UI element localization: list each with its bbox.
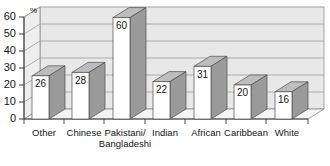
y-tick-label-30: 30 — [4, 61, 16, 73]
chart-canvas: % 0 10 20 30 40 50 60 26 — [0, 0, 330, 166]
y-tick-label-40: 40 — [4, 44, 16, 56]
x-category-label-african: African — [191, 127, 221, 138]
bar-other: 26 — [32, 66, 65, 119]
x-category-label-indian: Indian — [152, 127, 178, 138]
y-tick-label-50: 50 — [4, 27, 16, 39]
x-category-label-chinese: Chinese — [67, 127, 102, 138]
bar-value-pakistani-bangladeshi: 60 — [116, 20, 128, 31]
x-category-label-pakistani: Pakistani/ — [104, 127, 146, 138]
bar-pakistani-bangladeshi: 60 — [113, 8, 146, 119]
bar-value-caribbean: 20 — [237, 87, 249, 98]
bar-value-white: 16 — [278, 94, 290, 105]
bar-african: 31 — [194, 56, 227, 119]
y-tick-label-10: 10 — [4, 95, 16, 107]
y-axis-unit-label: % — [30, 6, 37, 15]
bar-caribbean: 20 — [234, 75, 267, 119]
y-tick-label-60: 60 — [4, 10, 16, 22]
x-category-label-white: White — [275, 127, 299, 138]
bar-chart: % 0 10 20 30 40 50 60 26 — [0, 0, 330, 166]
y-axis-ticks — [19, 17, 24, 119]
bar-chinese: 28 — [72, 62, 105, 119]
bar-indian: 22 — [153, 72, 186, 119]
x-axis-ticks — [24, 119, 308, 124]
x-category-label-other: Other — [32, 127, 56, 138]
bar-value-african: 31 — [197, 69, 209, 80]
y-tick-label-20: 20 — [4, 78, 16, 90]
bar-value-indian: 22 — [156, 84, 168, 95]
bar-value-chinese: 28 — [75, 75, 87, 86]
y-tick-label-0: 0 — [10, 112, 16, 124]
x-category-label-bangladeshi: Bangladeshi — [99, 138, 151, 149]
x-category-label-caribbean: Caribbean — [224, 127, 268, 138]
bar-value-other: 26 — [35, 78, 47, 89]
